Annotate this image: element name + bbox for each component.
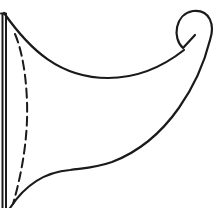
figure-canvas: Line drawing of a horn / cornucopia-like… bbox=[0, 0, 221, 208]
horn-drawing bbox=[0, 0, 221, 208]
scroll-curl bbox=[177, 11, 212, 48]
horn-top-edge bbox=[4, 13, 184, 78]
dashed-inner-curve bbox=[13, 34, 27, 204]
horn-bottom-edge bbox=[10, 40, 210, 208]
